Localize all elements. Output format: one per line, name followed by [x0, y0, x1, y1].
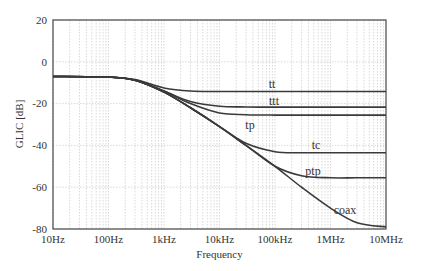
x-tick-10hz: 10Hz — [41, 233, 65, 245]
y-tick-20: 20 — [36, 14, 48, 26]
curve-label-tc: tc — [312, 138, 321, 152]
curve-label-ptp: ptp — [305, 164, 320, 178]
y-tick-minus60: -60 — [32, 181, 47, 193]
x-tick-10khz: 10kHz — [205, 233, 234, 245]
grid-lines — [53, 20, 386, 229]
y-tick-minus20: -20 — [32, 97, 47, 109]
y-axis-label: GLIC [dB] — [13, 100, 25, 149]
x-tick-1khz: 1kHz — [152, 233, 176, 245]
curve-label-ttt: ttt — [269, 94, 280, 108]
x-tick-100khz: 100kHz — [258, 233, 293, 245]
x-axis-label: Frequency — [196, 248, 243, 260]
y-tick-minus40: -40 — [32, 139, 47, 151]
curve-label-coax: coax — [334, 203, 357, 217]
x-tick-1mhz: 1MHz — [316, 233, 344, 245]
curve-label-tp: tp — [245, 118, 254, 132]
x-tick-10mhz: 10MHz — [369, 233, 403, 245]
y-tick-0: 0 — [42, 56, 48, 68]
curve-label-tt: tt — [269, 77, 276, 91]
x-tick-100hz: 100Hz — [94, 233, 123, 245]
glic-chart: 20 0 -20 -40 -60 -80 10Hz 100Hz 1kHz 10k… — [0, 0, 421, 271]
